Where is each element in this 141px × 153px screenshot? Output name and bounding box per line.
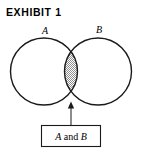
callout-term-b: B	[81, 131, 87, 142]
venn-diagram: A B A and B	[0, 0, 141, 153]
callout-label: A and B	[54, 131, 87, 142]
callout-conjunction: and	[61, 131, 80, 142]
exhibit-figure: EXHIBIT 1 A B A and B	[0, 0, 141, 153]
set-b-label: B	[96, 24, 102, 35]
set-a-label: A	[41, 25, 49, 36]
callout-arrowhead-icon	[68, 102, 74, 109]
